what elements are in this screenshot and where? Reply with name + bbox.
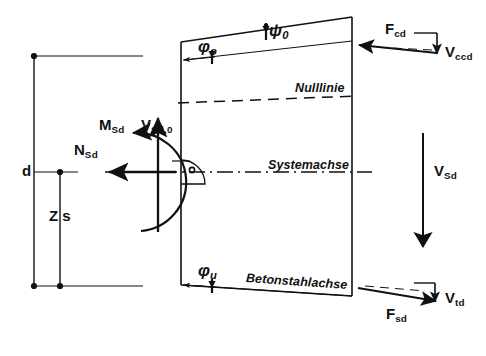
- label-v-ccd-sub: ccd: [455, 51, 473, 62]
- label-phi-u: φu: [198, 262, 217, 279]
- label-f-cd: Fcd: [385, 21, 406, 36]
- label-zs: Z s: [49, 208, 71, 223]
- label-psi-o: ψ0: [269, 22, 289, 39]
- label-f-cd-base: F: [385, 20, 394, 37]
- label-v-ccd-base: V: [445, 43, 455, 60]
- label-nulllinie: Nulllinie: [295, 82, 345, 95]
- label-phi-u-base: φ: [198, 261, 210, 280]
- label-n-sd-sub: Sd: [85, 149, 98, 160]
- label-f-sd-base: F: [386, 305, 395, 322]
- label-v-td-base: V: [445, 289, 455, 306]
- engineering-diagram: d Z s MSd NSd VSd,0 VSd Fcd Vccd Fsd Vtd…: [0, 0, 486, 356]
- label-v-sd-0-sub: Sd,0: [151, 124, 173, 135]
- dimension-dot-zs-top: [57, 169, 63, 175]
- dimension-dot-d-bottom: [31, 283, 37, 289]
- label-m-sd: MSd: [99, 117, 125, 132]
- label-d: d: [22, 163, 31, 178]
- dimension-dot-d-top: [31, 53, 37, 59]
- concrete-section-trapezoid: [181, 17, 352, 296]
- label-n-sd-base: N: [74, 141, 85, 158]
- hinge-center-dot: [189, 167, 194, 172]
- label-f-sd: Fsd: [386, 306, 407, 321]
- label-m-sd-base: M: [99, 116, 112, 133]
- label-phi-o: φo: [198, 38, 217, 55]
- label-v-sd-sub: Sd: [444, 170, 457, 181]
- force-arrow-f-cd: [359, 45, 437, 53]
- force-group-fsd-vtd: [358, 283, 436, 302]
- label-psi-o-base: ψ: [269, 21, 282, 40]
- label-v-td-sub: td: [455, 297, 465, 308]
- label-phi-o-sub: o: [210, 45, 217, 57]
- diagram-canvas: [0, 0, 486, 356]
- label-f-sd-sub: sd: [395, 313, 407, 324]
- label-psi-o-sub: 0: [282, 29, 288, 41]
- label-m-sd-sub: Sd: [112, 124, 125, 135]
- label-v-td: Vtd: [445, 290, 465, 305]
- force-arrow-f-sd: [358, 288, 436, 301]
- label-n-sd: NSd: [74, 142, 98, 157]
- neutral-axis-line: [178, 96, 356, 103]
- label-v-sd-base: V: [434, 162, 444, 179]
- compression-axis-arrow: [184, 57, 215, 60]
- label-phi-u-sub: u: [210, 269, 217, 281]
- moment-arc-m-sd: [133, 133, 186, 231]
- label-systemachse: Systemachse: [268, 159, 349, 172]
- label-phi-o-base: φ: [198, 37, 210, 56]
- label-v-sd-0: VSd,0: [141, 117, 173, 132]
- label-v-ccd: Vccd: [445, 44, 473, 59]
- label-v-sd-0-base: V: [141, 116, 151, 133]
- label-v-sd: VSd: [434, 163, 457, 178]
- angle-point-psi-o: [264, 24, 269, 29]
- label-f-cd-sub: cd: [394, 28, 406, 39]
- dimension-dot-zs-bottom: [57, 283, 63, 289]
